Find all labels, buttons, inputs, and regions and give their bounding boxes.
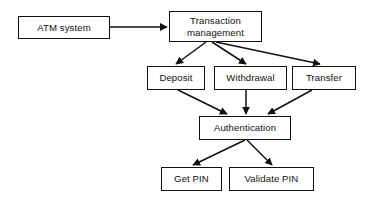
node-get-pin[interactable]: Get PIN [161,167,222,191]
node-authentication[interactable]: Authentication [199,116,291,140]
node-label: Authentication [214,122,276,133]
node-transaction-management[interactable]: Transaction management [169,11,262,42]
node-atm-system[interactable]: ATM system [18,16,110,39]
node-label: Withdrawal [226,72,274,83]
node-label: Transfer [306,72,342,83]
edge-transaction_management-to-transfer [216,42,320,64]
edge-transfer-to-authentication [268,90,312,114]
edge-transaction_management-to-deposit [176,42,206,64]
node-withdrawal[interactable]: Withdrawal [214,66,287,90]
edge-authentication-to-validate_pin [247,140,272,165]
node-validate-pin[interactable]: Validate PIN [229,167,314,191]
node-deposit[interactable]: Deposit [147,66,205,90]
node-label: ATM system [37,22,91,33]
node-label: Validate PIN [245,173,299,184]
node-label: Deposit [159,72,192,83]
edge-authentication-to-get_pin [193,140,245,165]
diagram-canvas: ATM system Transaction management Deposi… [0,0,373,203]
node-label: Get PIN [174,173,209,184]
node-label: Transaction management [187,15,244,38]
node-transfer[interactable]: Transfer [292,66,356,90]
edge-deposit-to-authentication [178,90,227,114]
